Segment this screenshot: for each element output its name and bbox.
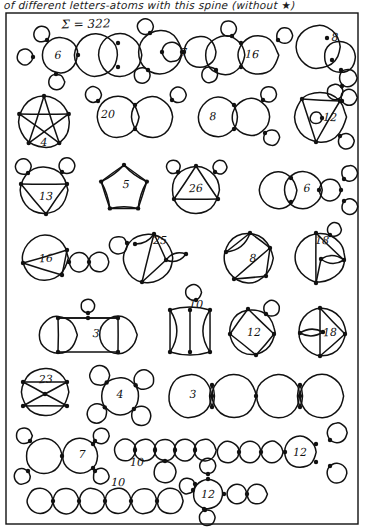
vertex-node [325,36,329,40]
vertex-node [17,112,21,116]
vertex-node [140,280,144,284]
circle-edge [69,252,89,272]
vertex-node [298,383,302,387]
circle-edge [194,439,216,461]
vertex-node [96,99,100,103]
vertex-node [116,350,120,354]
vertex-node [338,134,342,138]
circle-edge [154,439,176,460]
vertex-node [222,492,226,496]
vertex-node [129,499,133,503]
self-loop [221,21,237,36]
vertex-node [298,394,302,398]
circle-edge [174,439,196,461]
vertex-node [232,127,236,131]
vertex-node [184,252,188,256]
vertex-node [176,170,180,174]
vertex-node [77,499,81,503]
multiplicity-label: 4 [115,388,123,401]
vertex-node [28,439,32,443]
multiplicity-label: 12 [201,488,215,501]
multiplicity-label: 10 [130,456,144,469]
vertex-node [210,405,214,409]
circle-edge [80,488,105,513]
vertex-node [342,258,346,262]
vertex-node [298,331,302,335]
vertex-node [340,84,344,88]
vertex-node [168,308,172,312]
circle-edge [206,36,245,75]
chord-edge [142,260,166,282]
multiplicity-label: 23 [38,373,54,387]
vertex-node [136,206,140,210]
vertex-node [122,163,126,167]
multiplicity-label: 20 [100,108,115,121]
vertex-node [86,311,90,315]
vertex-node [263,131,267,135]
vertex-node [319,257,323,261]
circle-edge [74,34,117,77]
circle-edge [131,97,172,138]
diagram-svg: Σ = 322671684208121352661625818310121823… [0,0,365,529]
vertex-node [254,394,258,398]
multiplicity-label: 12 [247,326,261,339]
vertex-node [237,450,241,454]
arc-edge [138,182,147,209]
self-loop [81,299,94,312]
vertex-node [125,241,129,245]
vertex-node [57,141,61,145]
vertex-node [318,306,322,310]
vertex-node [193,482,197,486]
vertex-node [202,507,206,511]
vertex-node [132,407,136,411]
vertex-node [116,41,120,45]
vertex-node [164,258,168,262]
vertex-node [248,231,252,235]
multiplicity-label: 3 [189,388,196,401]
diagram-page: of different letters-atoms with this spi… [0,0,365,529]
vertex-node [99,179,103,183]
vertex-node [133,242,137,246]
vertex-node [60,273,64,277]
vertex-node [191,488,195,492]
arc-edge [170,310,177,352]
vertex-node [133,103,137,107]
vertex-node [56,316,60,320]
vertex-node [87,260,91,264]
vertex-node [194,164,198,168]
vertex-node [339,188,343,192]
multiplicity-label: 3 [92,327,99,340]
circle-edge [247,484,267,504]
vertex-node [44,212,48,216]
label-layer: Σ = 322671684208121352661625818310121823… [38,16,339,501]
vertex-node [283,450,287,454]
vertex-node [289,200,293,204]
vertex-node [65,248,69,252]
vertex-node [339,68,343,72]
circle-edge [300,374,343,417]
vertex-node [208,350,212,354]
vertex-node [264,312,268,316]
circle-edge [89,252,108,272]
vertex-node [116,65,120,69]
vertex-node [45,38,49,42]
vertex-node [314,140,318,144]
vertex-node [67,112,71,116]
vertex-node [224,250,228,254]
circle-edge [53,488,79,514]
vertex-node [193,448,197,452]
multiplicity-label: 25 [152,234,167,247]
multiplicity-label: 16 [245,48,259,61]
vertex-node [19,182,23,186]
vertex-node [232,103,236,107]
vertex-node [300,97,304,101]
self-loop [49,74,65,89]
self-loop [17,49,33,65]
vertex-node [103,405,107,409]
vertex-node [259,450,263,454]
multiplicity-label: 6 [303,182,310,195]
arc-edge [166,253,186,260]
vertex-node [27,141,31,145]
vertex-node [328,464,332,468]
multiplicity-label: 26 [188,182,203,196]
